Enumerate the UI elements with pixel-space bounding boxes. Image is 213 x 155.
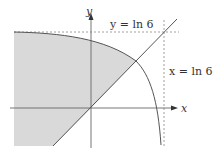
x-axis-label: x xyxy=(181,102,188,115)
y-asymptote-label: y = ln 6 xyxy=(109,18,154,31)
y-axis-label: y xyxy=(85,5,93,18)
x-axis-arrow-icon xyxy=(171,106,178,111)
x-asymptote-label: x = ln 6 xyxy=(169,65,213,78)
shaded-region xyxy=(14,32,136,146)
diagram-canvas: y x y = ln 6 x = ln 6 xyxy=(0,0,213,155)
